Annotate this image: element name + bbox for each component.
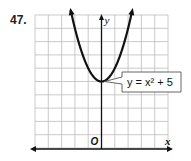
function-label-callout: y = x² + 5 <box>105 72 182 92</box>
y-axis-label: y <box>104 14 110 26</box>
parabola-chart: y = x² + 5 x y O <box>0 0 191 161</box>
curve-arrow-icon <box>69 8 75 15</box>
function-label: y = x² + 5 <box>127 76 173 88</box>
origin-label: O <box>91 136 99 147</box>
curve-arrow-icon <box>128 8 134 15</box>
x-axis-label: x <box>164 135 171 147</box>
